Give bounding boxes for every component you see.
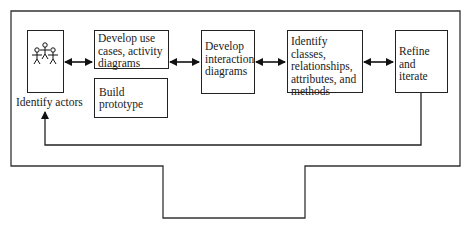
diagram-canvas: Identify actors Develop use cases, activ… (0, 0, 470, 226)
use-cases-box: Develop use cases, activity diagrams (94, 30, 169, 69)
refine-box: Refine and iterate (395, 30, 448, 93)
classes-box: Identify classes, relationships, attribu… (287, 30, 363, 93)
actors-icon (28, 31, 62, 91)
interaction-box: Develop interaction diagrams (201, 30, 255, 94)
prototype-label: Build prototype (99, 86, 163, 111)
prototype-box: Build prototype (94, 78, 168, 118)
actors-label: Identify actors (16, 96, 83, 108)
actors-box (27, 30, 64, 93)
